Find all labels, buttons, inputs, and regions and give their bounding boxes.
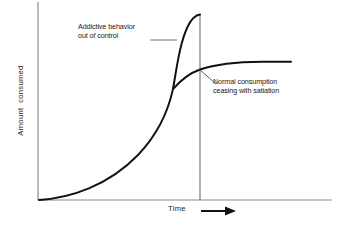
y-axis-label: Amount consumed xyxy=(16,51,25,151)
x-axis-label: Time xyxy=(168,204,186,213)
shared-baseline-curve xyxy=(39,89,173,200)
annotation-addictive-line1: Addictive behavior xyxy=(78,22,135,31)
chart-canvas xyxy=(0,0,352,227)
annotation-addictive-line2: out of control xyxy=(78,31,118,40)
annotation-normal-consumption: Normal consumptionceasing with satiation xyxy=(213,77,279,95)
right-arrow-icon xyxy=(201,207,236,216)
annotation-normal-line2: ceasing with satiation xyxy=(213,86,279,95)
annotation-addictive-behavior: Addictive behaviorout of control xyxy=(78,22,135,40)
annotation-normal-line1: Normal consumption xyxy=(213,77,277,86)
chart-figure: Addictive behaviorout of control Normal … xyxy=(0,0,352,227)
